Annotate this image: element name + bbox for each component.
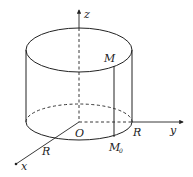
y-axis-label: y <box>169 124 177 137</box>
x-axis-label: x <box>21 160 28 173</box>
point-M0-subscript: 0 <box>119 147 123 154</box>
point-M-label: M <box>103 52 116 65</box>
radius-label-x: R <box>41 145 50 158</box>
cylinder-diagram: z y x O M M 0 R R <box>0 0 193 177</box>
origin-label: O <box>75 127 84 140</box>
z-axis-label: z <box>83 8 90 21</box>
x-axis <box>15 122 79 165</box>
radius-label-y: R <box>132 126 141 139</box>
